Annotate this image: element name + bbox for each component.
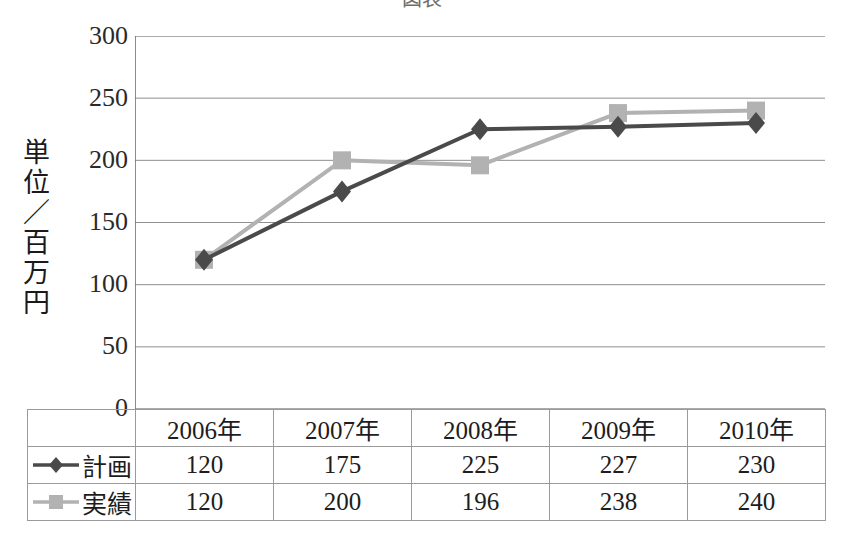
- plot-area: [135, 36, 825, 409]
- table-cell-value: 120: [136, 484, 274, 521]
- legend-label-plan: 計画: [82, 447, 132, 483]
- data-point-実績: [471, 156, 489, 174]
- data-table: 2006年 2007年 2008年 2009年 2010年 計画: [27, 409, 826, 521]
- diamond-marker-icon: [32, 454, 80, 476]
- square-marker-icon: [32, 491, 80, 513]
- legend-label-actual: 実績: [82, 484, 132, 520]
- data-table-wrapper: 2006年 2007年 2008年 2009年 2010年 計画: [27, 409, 825, 531]
- table-cell-value: 200: [274, 484, 412, 521]
- column-header-year: 2009年: [550, 410, 688, 447]
- y-axis-label-char: ／: [12, 198, 60, 228]
- y-tick-label: 250: [56, 85, 128, 111]
- data-point-実績: [333, 151, 351, 169]
- column-header-year: 2006年: [136, 410, 274, 447]
- y-axis-label-char: 位: [12, 168, 60, 198]
- table-header-row: 2006年 2007年 2008年 2009年 2010年: [28, 410, 826, 447]
- y-axis-label: 単 位 ／ 百 万 円: [12, 138, 60, 318]
- y-tick-label: 200: [56, 147, 128, 173]
- table-row: 実績 120 200 196 238 240: [28, 484, 826, 521]
- data-point-計画: [471, 118, 489, 140]
- table-cell-value: 120: [136, 447, 274, 484]
- column-header-year: 2008年: [412, 410, 550, 447]
- series-layer: [195, 102, 765, 271]
- table-row: 計画 120 175 225 227 230: [28, 447, 826, 484]
- y-axis-ticks: 300 250 200 150 100 50 0: [56, 0, 128, 440]
- table-corner-cell: [28, 410, 136, 447]
- y-axis-label-char: 万: [12, 258, 60, 288]
- table-cell-value: 175: [274, 447, 412, 484]
- column-header-year: 2010年: [688, 410, 826, 447]
- chart-page: 図表 単 位 ／ 百 万 円 300 250 200 150 100 50 0: [0, 0, 843, 546]
- table-cell-value: 230: [688, 447, 826, 484]
- table-cell-value: 227: [550, 447, 688, 484]
- table-cell-value: 196: [412, 484, 550, 521]
- y-axis-label-char: 単: [12, 138, 60, 168]
- legend-cell-plan: 計画: [28, 447, 136, 484]
- line-chart-svg: [135, 36, 825, 409]
- y-axis-label-char: 円: [12, 288, 60, 318]
- y-tick-label: 50: [56, 333, 128, 359]
- y-tick-label: 300: [56, 23, 128, 49]
- column-header-year: 2007年: [274, 410, 412, 447]
- table-cell-value: 225: [412, 447, 550, 484]
- y-tick-label: 150: [56, 209, 128, 235]
- data-point-計画: [333, 180, 351, 202]
- y-axis-label-char: 百: [12, 228, 60, 258]
- gridlines: [135, 36, 825, 409]
- y-tick-label: 100: [56, 271, 128, 297]
- table-cell-value: 238: [550, 484, 688, 521]
- legend-cell-actual: 実績: [28, 484, 136, 521]
- series-line-計画: [204, 123, 756, 260]
- table-cell-value: 240: [688, 484, 826, 521]
